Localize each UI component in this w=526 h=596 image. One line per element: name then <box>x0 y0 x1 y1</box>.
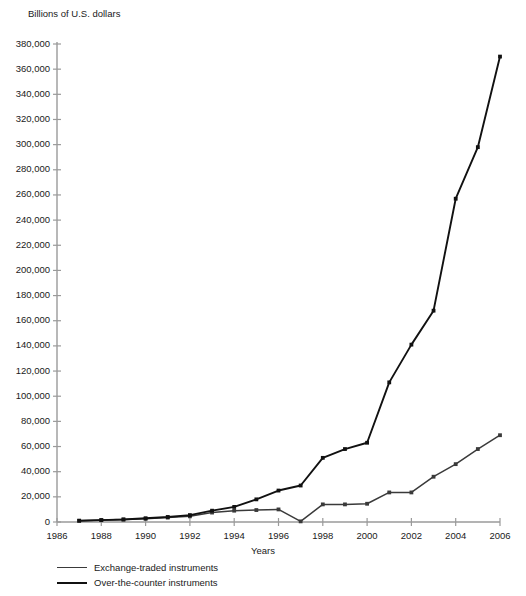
y-tick-label: 60,000 <box>0 440 50 451</box>
plot-area <box>0 0 526 596</box>
y-tick-label: 100,000 <box>0 390 50 401</box>
y-tick-label: 320,000 <box>0 113 50 124</box>
y-tick-label: 240,000 <box>0 214 50 225</box>
x-tick-label: 1992 <box>170 530 210 541</box>
legend-item-0: Exchange-traded instruments <box>57 560 477 575</box>
axis-lines <box>57 42 500 522</box>
y-tick-label: 300,000 <box>0 138 50 149</box>
x-tick-label: 1990 <box>126 530 166 541</box>
x-tick-label: 2002 <box>391 530 431 541</box>
x-axis-title: Years <box>0 545 526 556</box>
legend-line-icon <box>57 567 87 568</box>
x-tick-label: 1998 <box>303 530 343 541</box>
y-tick-label: 380,000 <box>0 38 50 49</box>
y-tick-label: 200,000 <box>0 264 50 275</box>
y-tick-label: 260,000 <box>0 188 50 199</box>
chart-legend: Exchange-traded instrumentsOver-the-coun… <box>57 560 477 590</box>
y-tick-label: 40,000 <box>0 465 50 476</box>
y-tick-label: 340,000 <box>0 88 50 99</box>
y-tick-label: 160,000 <box>0 314 50 325</box>
y-axis-title: Billions of U.S. dollars <box>28 8 120 19</box>
x-tick-label: 1996 <box>259 530 299 541</box>
legend-item-1: Over-the-counter instruments <box>57 575 477 590</box>
y-tick-label: 20,000 <box>0 490 50 501</box>
y-tick-label: 140,000 <box>0 339 50 350</box>
series-1 <box>77 55 502 523</box>
x-tick-label: 2000 <box>347 530 387 541</box>
x-tick-label: 2006 <box>480 530 520 541</box>
y-tick-label: 280,000 <box>0 163 50 174</box>
y-tick-label: 220,000 <box>0 239 50 250</box>
x-tick-label: 1994 <box>214 530 254 541</box>
x-tick-label: 2004 <box>436 530 476 541</box>
y-tick-label: 0 <box>0 516 50 527</box>
tick-marks <box>53 44 500 526</box>
x-tick-label: 1988 <box>81 530 121 541</box>
series-layer <box>77 55 502 524</box>
y-tick-label: 180,000 <box>0 289 50 300</box>
line-chart-figure: Billions of U.S. dollars 020,00040,00060… <box>0 0 526 596</box>
y-tick-label: 80,000 <box>0 415 50 426</box>
series-0 <box>77 433 502 523</box>
legend-item-label: Over-the-counter instruments <box>94 577 218 588</box>
y-tick-label: 360,000 <box>0 63 50 74</box>
y-tick-label: 120,000 <box>0 365 50 376</box>
legend-item-label: Exchange-traded instruments <box>94 562 218 573</box>
legend-line-icon <box>57 582 87 584</box>
x-tick-label: 1986 <box>37 530 77 541</box>
